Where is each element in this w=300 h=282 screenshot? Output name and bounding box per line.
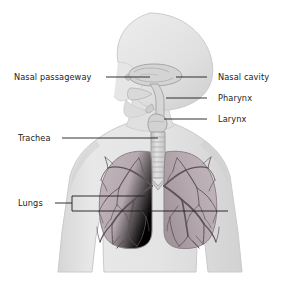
respiratory-system-diagram: Nasal passagewayTracheaLungsNasal cavity… — [0, 0, 300, 282]
label-lungs: Lungs — [18, 198, 43, 208]
label-larynx: Larynx — [218, 114, 246, 124]
label-nasal-cavity: Nasal cavity — [218, 72, 269, 82]
label-pharynx: Pharynx — [218, 93, 252, 103]
label-nasal-passageway: Nasal passageway — [14, 72, 91, 82]
label-trachea: Trachea — [18, 133, 51, 143]
